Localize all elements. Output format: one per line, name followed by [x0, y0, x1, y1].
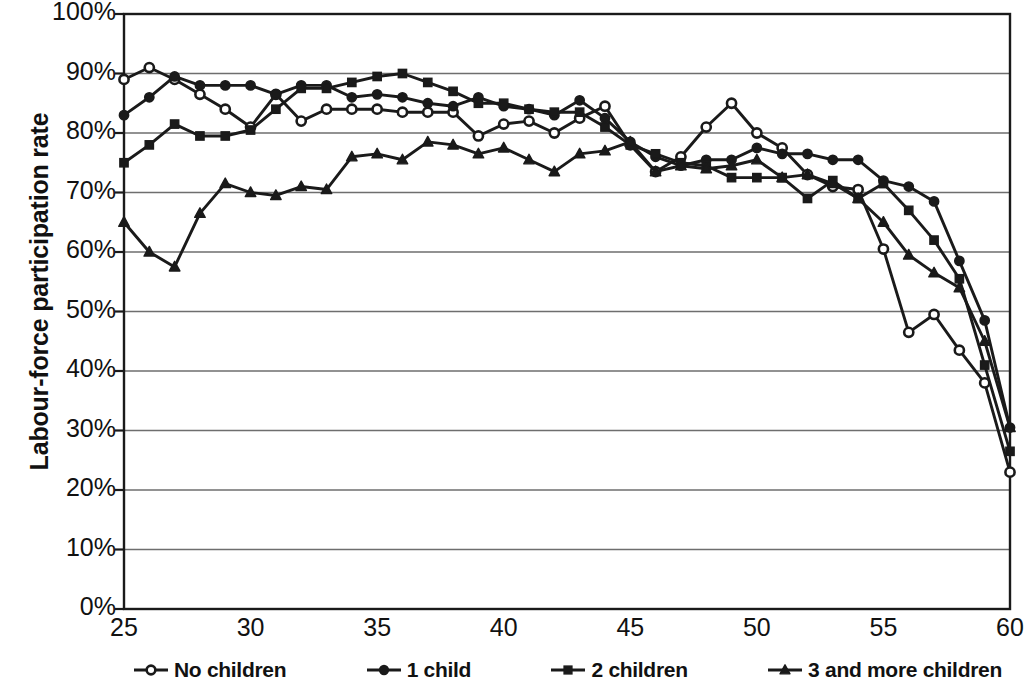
- data-point-marker: [271, 90, 280, 99]
- data-point-marker: [322, 105, 331, 114]
- data-point-marker: [398, 69, 406, 77]
- data-point-marker: [955, 346, 964, 355]
- data-point-marker: [170, 120, 178, 128]
- data-point-marker: [398, 108, 407, 117]
- data-point-marker: [498, 142, 509, 152]
- data-point-marker: [828, 155, 837, 164]
- data-point-marker: [398, 93, 407, 102]
- data-point-marker: [220, 178, 231, 188]
- data-point-marker: [145, 63, 154, 72]
- data-point-marker: [550, 108, 558, 116]
- data-point-marker: [379, 666, 388, 675]
- data-point-marker: [600, 114, 609, 123]
- data-point-marker: [423, 99, 432, 108]
- data-point-marker: [955, 256, 964, 265]
- data-point-marker: [500, 99, 508, 107]
- x-axis-tick-label: 60: [970, 613, 1028, 642]
- data-point-marker: [565, 666, 573, 674]
- data-point-marker: [600, 102, 609, 111]
- data-point-marker: [550, 128, 559, 137]
- data-point-marker: [423, 108, 432, 117]
- legend-marker-filled-circle-icon: [365, 661, 403, 679]
- data-point-marker: [347, 105, 356, 114]
- data-point-marker: [576, 108, 584, 116]
- data-point-marker: [347, 93, 356, 102]
- data-point-marker: [499, 119, 508, 128]
- chart-legend: No children1 child2 children3 and more c…: [124, 655, 1010, 683]
- data-point-marker: [221, 81, 230, 90]
- data-point-marker: [727, 99, 736, 108]
- data-point-marker: [297, 84, 305, 92]
- data-point-marker: [246, 126, 254, 134]
- data-point-marker: [601, 123, 609, 131]
- data-point-marker: [196, 132, 204, 140]
- data-point-marker: [322, 84, 330, 92]
- data-point-marker: [854, 155, 863, 164]
- data-point-marker: [727, 173, 735, 181]
- data-point-marker: [119, 75, 128, 84]
- data-point-marker: [373, 90, 382, 99]
- legend-label: No children: [174, 658, 286, 682]
- data-point-marker: [753, 173, 761, 181]
- legend-label: 1 child: [407, 658, 471, 682]
- x-axis-tick-label: 40: [464, 613, 544, 642]
- legend-label: 3 and more children: [808, 658, 1002, 682]
- x-axis-tick-label: 30: [211, 613, 291, 642]
- x-axis-tick-label: 55: [843, 613, 923, 642]
- series-line-no-children: [119, 63, 1014, 477]
- data-point-marker: [879, 244, 888, 253]
- legend-item-2-children[interactable]: 2 children: [549, 658, 687, 682]
- x-axis-tick-label: 50: [717, 613, 797, 642]
- legend-label: 2 children: [591, 658, 687, 682]
- series-path: [124, 68, 1010, 473]
- data-point-marker: [525, 105, 533, 113]
- data-point-marker: [424, 78, 432, 86]
- data-point-marker: [449, 87, 457, 95]
- data-point-marker: [904, 182, 913, 191]
- data-point-marker: [752, 143, 761, 152]
- data-point-marker: [930, 236, 938, 244]
- data-point-marker: [904, 328, 913, 337]
- legend-item-no-children[interactable]: No children: [132, 658, 286, 682]
- x-axis-tick-label: 35: [337, 613, 417, 642]
- data-point-marker: [297, 117, 306, 126]
- data-point-marker: [195, 81, 204, 90]
- data-point-marker: [170, 72, 179, 81]
- legend-marker-open-circle-icon: [132, 661, 170, 679]
- data-point-marker: [879, 179, 887, 187]
- data-point-marker: [524, 117, 533, 126]
- data-point-marker: [474, 131, 483, 140]
- data-point-marker: [195, 90, 204, 99]
- series-line-2-children: [120, 69, 1014, 455]
- series-path: [124, 74, 1010, 452]
- data-point-marker: [145, 93, 154, 102]
- data-point-marker: [120, 159, 128, 167]
- data-point-marker: [221, 105, 230, 114]
- legend-item-3-and-more-children[interactable]: 3 and more children: [766, 658, 1002, 682]
- data-point-marker: [221, 132, 229, 140]
- x-axis-tick-label: 45: [590, 613, 670, 642]
- data-point-marker: [119, 217, 130, 227]
- data-point-marker: [373, 72, 381, 80]
- data-point-marker: [803, 149, 812, 158]
- data-point-marker: [929, 310, 938, 319]
- data-point-marker: [119, 111, 128, 120]
- data-point-marker: [778, 149, 787, 158]
- data-point-marker: [702, 122, 711, 131]
- legend-item-1-child[interactable]: 1 child: [365, 658, 471, 682]
- x-axis-tick-label: 25: [84, 613, 164, 642]
- data-point-marker: [348, 78, 356, 86]
- legend-marker-filled-square-icon: [549, 661, 587, 679]
- data-point-marker: [905, 206, 913, 214]
- data-point-marker: [373, 105, 382, 114]
- legend-marker-filled-triangle-icon: [766, 661, 804, 679]
- series-path: [124, 142, 1010, 428]
- data-point-marker: [474, 99, 482, 107]
- data-point-marker: [1006, 447, 1014, 455]
- data-point-marker: [803, 194, 811, 202]
- data-point-marker: [272, 105, 280, 113]
- data-point-marker: [145, 141, 153, 149]
- data-point-marker: [448, 102, 457, 111]
